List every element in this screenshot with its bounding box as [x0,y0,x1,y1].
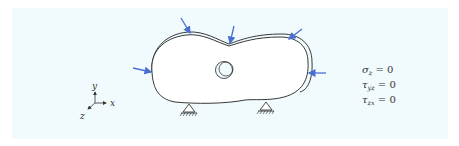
equation-sigma-z: σz = 0 [362,64,396,79]
z-axis-label: z [79,111,85,121]
coordinate-axes [88,92,106,109]
equation-tau-yz: τyz = 0 [362,79,396,94]
boundary-conditions: σz = 0 τyz = 0 τzx = 0 [362,64,396,109]
load-arrow-top-middle [230,26,234,43]
load-arrow-left [133,68,151,72]
z-axis [88,103,95,109]
pin-support-right [257,102,274,114]
y-axis-label: y [91,81,98,91]
equation-tau-zx: τzx = 0 [362,94,396,109]
x-axis-label: x [110,98,115,108]
load-arrow-top-left [181,18,190,33]
load-arrow-top-right [289,29,302,39]
pin-support-left [180,104,197,116]
